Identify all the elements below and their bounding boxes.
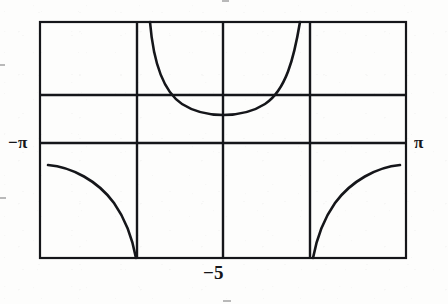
scan-artifact-mark	[223, 300, 231, 302]
curve-branch-right	[313, 165, 400, 258]
axis-label-left-pi: −π	[8, 133, 27, 153]
scan-artifact-mark	[0, 64, 5, 66]
curve-branch-left	[48, 165, 136, 258]
axis-label-x-tick: −5	[203, 262, 224, 284]
scan-artifact-mark	[0, 197, 6, 199]
function-graph-plot	[0, 0, 448, 304]
axis-label-right-pi: π	[414, 133, 424, 153]
scan-artifact-mark	[222, 0, 229, 2]
curve-branch-center	[150, 22, 300, 115]
figure-canvas: −π π −5	[0, 0, 448, 304]
